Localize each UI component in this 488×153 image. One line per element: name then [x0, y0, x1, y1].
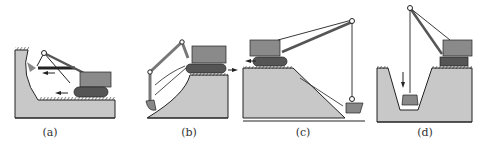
- panel-c: [243, 19, 365, 122]
- panel-b: [146, 40, 238, 118]
- caption-c: (c): [288, 126, 318, 139]
- panel-d: [377, 6, 472, 123]
- caption-d: (d): [410, 126, 440, 139]
- panel-a: [15, 47, 115, 118]
- caption-b: (b): [174, 126, 204, 139]
- caption-a: (a): [35, 126, 65, 139]
